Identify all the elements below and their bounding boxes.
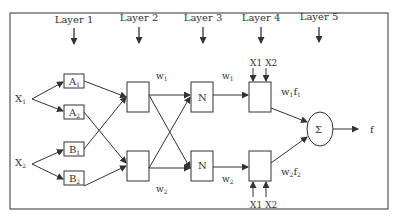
node-b1-label: B1 xyxy=(69,144,80,156)
norm-node-bottom-label: N xyxy=(198,160,207,171)
layer4-top-inputs: X1X2 xyxy=(250,58,277,68)
layer-1-label: Layer 1 xyxy=(55,14,94,25)
node-a2-label: A2 xyxy=(68,107,80,119)
node-a1-label: A1 xyxy=(68,76,80,88)
output-w1f1: w1f1 xyxy=(281,86,301,98)
weight-w1-layer3: w1 xyxy=(222,71,234,82)
node-b2-label: B2 xyxy=(69,173,80,185)
anfis-diagram: Layer 1 Layer 2 Layer 3 Layer 4 Layer 5 … xyxy=(0,0,393,216)
layer2-node-top xyxy=(127,82,149,112)
output-f-label: f xyxy=(370,124,375,135)
weight-w2-layer2: w2 xyxy=(156,184,168,195)
layer4-node-bottom xyxy=(249,151,271,181)
layer-4-label: Layer 4 xyxy=(242,12,281,23)
input-x1: X1 xyxy=(15,93,26,105)
output-w2f2: w2f2 xyxy=(281,166,301,178)
input-x2: X2 xyxy=(15,157,26,169)
layer2-node-bottom xyxy=(127,151,149,181)
layer4-node-top xyxy=(249,82,271,112)
connections xyxy=(32,68,358,197)
weight-w2-layer3: w2 xyxy=(222,174,234,185)
norm-node-top-label: N xyxy=(198,92,207,103)
sum-symbol: Σ xyxy=(315,124,322,135)
layer-5-label: Layer 5 xyxy=(300,11,339,22)
weight-w1-layer2: w1 xyxy=(156,71,168,82)
layer-2-label: Layer 2 xyxy=(120,12,159,23)
layer-arrows xyxy=(74,27,319,44)
layer-3-label: Layer 3 xyxy=(184,12,223,23)
